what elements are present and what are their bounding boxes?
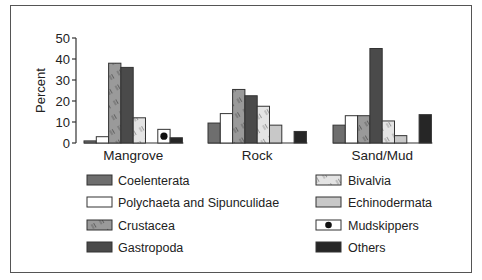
bar-others-sand-mud — [419, 115, 431, 143]
legend-swatch-crustacea — [87, 220, 112, 230]
legend-swatch-bivalvia — [316, 175, 341, 185]
mudskipper-dot-icon — [160, 133, 167, 140]
bar-echinodermata-rock — [270, 125, 282, 143]
bar-others-mangrove — [170, 138, 182, 143]
legend-swatch-coelenterata — [87, 175, 112, 185]
y-tick-label: 0 — [63, 136, 70, 151]
chart-legend: CoelenterataPolychaeta and SipunculidaeC… — [87, 174, 432, 255]
legend-swatch-polychaeta-and-sipunculidae — [87, 197, 112, 207]
mudskipper-dot-icon — [325, 222, 332, 229]
legend-swatch-gastropoda — [87, 242, 112, 252]
bar-crustacea-mangrove — [109, 63, 121, 143]
bar-echinodermata-sand-mud — [395, 136, 407, 143]
bar-bivalvia-sand-mud — [382, 121, 394, 143]
legend-swatch-echinodermata — [316, 197, 341, 207]
bar-bivalvia-mangrove — [133, 118, 145, 143]
bar-gastropoda-mangrove — [121, 67, 133, 143]
y-tick-label: 10 — [56, 115, 70, 130]
legend-label: Mudskippers — [348, 219, 419, 233]
bar-chart: 01020304050Percent MangroveRockSand/Mud … — [0, 0, 482, 280]
bar-gastropoda-sand-mud — [370, 49, 382, 144]
chart-axes: 01020304050Percent — [33, 31, 76, 151]
x-category-label: Sand/Mud — [351, 148, 413, 163]
y-axis-label: Percent — [33, 68, 48, 113]
legend-swatch-others — [316, 242, 341, 252]
y-tick-label: 20 — [56, 94, 70, 109]
bar-bivalvia-rock — [257, 106, 269, 143]
y-tick-label: 40 — [56, 52, 70, 67]
bar-polychaeta-and-sipunculidae-sand-mud — [345, 116, 357, 143]
y-tick-label: 50 — [56, 31, 70, 46]
chart-bars: MangroveRockSand/Mud — [84, 49, 432, 164]
bar-coelenterata-sand-mud — [333, 125, 345, 143]
bar-crustacea-rock — [233, 89, 245, 143]
legend-label: Bivalvia — [348, 174, 391, 188]
legend-label: Crustacea — [118, 219, 175, 233]
legend-label: Echinodermata — [348, 196, 432, 210]
bar-coelenterata-mangrove — [84, 141, 96, 143]
bar-crustacea-sand-mud — [358, 116, 370, 143]
x-category-label: Rock — [242, 148, 273, 163]
legend-label: Gastropoda — [118, 241, 183, 255]
legend-label: Polychaeta and Sipunculidae — [118, 196, 279, 210]
bar-others-rock — [294, 131, 306, 143]
y-tick-label: 30 — [56, 73, 70, 88]
legend-label: Coelenterata — [118, 174, 190, 188]
x-category-label: Mangrove — [103, 148, 163, 163]
legend-label: Others — [348, 241, 386, 255]
bar-coelenterata-rock — [208, 123, 220, 143]
bar-polychaeta-and-sipunculidae-mangrove — [96, 137, 108, 143]
bar-polychaeta-and-sipunculidae-rock — [220, 114, 232, 143]
bar-gastropoda-rock — [245, 96, 257, 143]
